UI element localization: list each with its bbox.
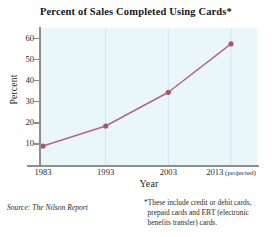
plot-area bbox=[41, 28, 257, 165]
chart-title: Percent of Sales Completed Using Cards* bbox=[0, 6, 272, 17]
data-point-2013 bbox=[228, 41, 233, 46]
data-line-series bbox=[43, 44, 231, 146]
y-tick-label-10: 10 bbox=[4, 139, 34, 148]
plot-svg bbox=[41, 28, 257, 165]
y-tick-mark bbox=[34, 143, 40, 144]
x-tick-label-year: 2013 bbox=[206, 167, 223, 177]
data-point-2003 bbox=[166, 90, 171, 95]
data-point-1983 bbox=[41, 143, 46, 148]
x-axis-title: Year bbox=[41, 178, 257, 189]
source-note: Source: The Nilson Report bbox=[7, 203, 88, 212]
y-tick-mark bbox=[34, 80, 40, 81]
y-tick-mark bbox=[34, 59, 40, 60]
chart-figure: Percent of Sales Completed Using Cards* … bbox=[0, 0, 272, 237]
x-tick-label-qualifier: (projected) bbox=[223, 169, 255, 177]
x-tick-label-2013: 2013 (projected) bbox=[193, 168, 269, 177]
x-axis-line bbox=[27, 165, 259, 167]
y-tick-mark bbox=[34, 38, 40, 39]
y-axis-title: Percent bbox=[8, 60, 19, 120]
y-axis-line bbox=[39, 27, 41, 166]
data-point-1993 bbox=[103, 123, 108, 128]
y-tick-label-20: 20 bbox=[4, 118, 34, 127]
y-tick-label-60: 60 bbox=[4, 34, 34, 43]
y-tick-mark bbox=[34, 101, 40, 102]
footnote-text: *These include credit or debit cards, pr… bbox=[144, 198, 272, 227]
vertical-gridlines bbox=[106, 28, 231, 165]
y-tick-mark bbox=[34, 122, 40, 123]
data-point-markers bbox=[41, 41, 234, 148]
